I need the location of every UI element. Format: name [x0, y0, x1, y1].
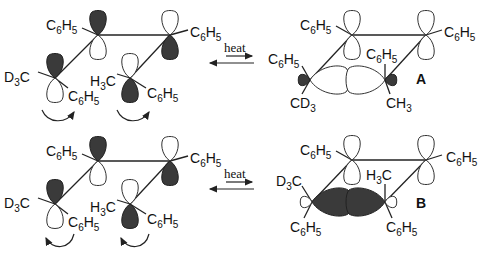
sigma-lobe-empty: [346, 66, 385, 94]
product-a: C6H5 C6H5 C6H5 C6H5 CD3 CH3 A: [268, 11, 476, 115]
p-orbital-filled-lobe: [90, 11, 106, 36]
label-phenyl: C6H5: [446, 149, 478, 168]
sigma-lobe-filled: [312, 188, 351, 216]
sigma-lobe-filled: [346, 188, 385, 216]
p-orbital-filled-lobe: [47, 54, 63, 79]
equilibrium-arrows-a: heat: [210, 40, 254, 63]
rotation-arrow-icon: [42, 110, 74, 121]
rotation-arrow-icon: [117, 110, 149, 121]
label-phenyl: C6H5: [68, 214, 100, 233]
equilibrium-arrows-b: heat: [210, 166, 254, 189]
label-phenyl: C6H5: [268, 51, 300, 70]
p-orbital-empty-lobe: [90, 35, 106, 60]
rotation-arrow-icon: [46, 234, 74, 247]
label-ch3: H3C: [90, 73, 116, 92]
rotation-arrow-icon: [121, 234, 149, 247]
label-cd3: D3C: [276, 173, 302, 192]
label-phenyl: C6H5: [190, 150, 222, 169]
heat-label: heat: [224, 166, 246, 181]
reactant-row-a: C6H5 C6H5 D3C C6H5 H3C C6H5: [4, 11, 222, 121]
label-cd3: D3C: [4, 195, 30, 214]
product-label-a: A: [416, 71, 426, 87]
product-b: C6H5 C6H5 D3C H3C C6H5 C6H5 B: [276, 136, 478, 239]
label-phenyl: C6H5: [68, 88, 100, 107]
sigma-lobe-empty: [310, 66, 349, 94]
label-phenyl: C6H5: [147, 211, 179, 230]
label-phenyl: C6H5: [444, 24, 476, 43]
label-phenyl: C6H5: [300, 142, 332, 161]
label-phenyl: C6H5: [190, 24, 222, 43]
product-label-b: B: [416, 195, 426, 211]
orbital-diagram: C6H5 C6H5 D3C C6H5 H3C C6H5 heat C6H5: [0, 0, 487, 255]
reactant-row-b: C6H5 C6H5 D3C C6H5 H3C C6H5: [4, 137, 222, 247]
label-phenyl: C6H5: [290, 219, 322, 238]
label-phenyl: C6H5: [386, 219, 418, 238]
p-orbital-empty-lobe: [122, 54, 138, 79]
label-phenyl: C6H5: [46, 143, 78, 162]
label-cd3: CD3: [290, 95, 316, 114]
label-phenyl: C6H5: [147, 85, 179, 104]
label-ch3: CH3: [386, 95, 412, 114]
heat-label: heat: [224, 40, 246, 55]
label-phenyl: C6H5: [46, 17, 78, 36]
label-phenyl: C6H5: [300, 17, 332, 36]
label-ch3: H3C: [366, 167, 392, 186]
p-orbital-empty-lobe: [162, 11, 178, 36]
p-orbital-filled-lobe: [162, 35, 178, 60]
label-phenyl: C6H5: [366, 46, 398, 65]
label-cd3: D3C: [4, 69, 30, 88]
label-ch3: H3C: [90, 199, 116, 218]
